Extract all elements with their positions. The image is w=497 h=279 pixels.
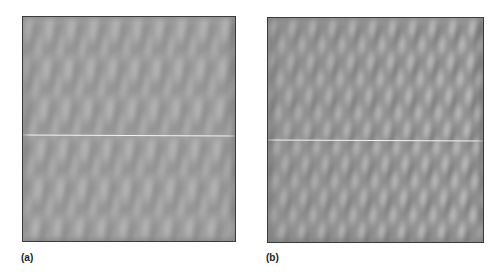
texture-image-a (22, 16, 236, 242)
panel-label-a: (a) (21, 252, 33, 263)
texture-pattern-b (268, 18, 484, 243)
panel-label-b: (b) (266, 252, 279, 263)
texture-image-b (267, 17, 484, 243)
texture-pattern-a (23, 17, 236, 242)
